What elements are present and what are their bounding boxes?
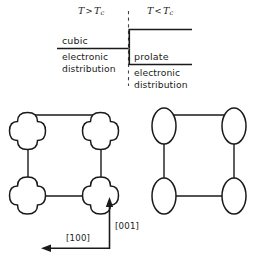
right-lattice-node-top-right — [222, 108, 246, 144]
right-lattice-node-bottom-left — [152, 178, 176, 214]
physics-diagram: T>Tc T<Tc cubic electronic distribution … — [0, 0, 254, 259]
left-lattice-node-top-left — [10, 113, 46, 150]
left-lattice-node-bottom-right — [83, 177, 119, 214]
phase-descriptor-left-line1: electronic — [62, 52, 108, 62]
phase-descriptor-right-line1: electronic — [134, 68, 180, 78]
left-lattice — [10, 113, 119, 215]
right-lattice — [152, 108, 246, 214]
right-lattice-node-top-left — [152, 108, 176, 144]
phase-descriptor-right-line2: distribution — [134, 80, 188, 90]
axis-label-100: [100] — [66, 234, 90, 244]
phase-name-cubic: cubic — [62, 36, 88, 47]
phase-name-prolate: prolate — [134, 52, 169, 63]
condition-right-operator: < — [154, 6, 163, 16]
condition-left-reference-subscript: c — [100, 9, 104, 17]
condition-left-operator: > — [85, 6, 94, 16]
condition-right-symbol: T — [147, 5, 154, 16]
right-lattice-node-bottom-right — [222, 178, 246, 214]
axis-label-001: [001] — [115, 222, 139, 232]
phase-descriptor-left-line2: distribution — [62, 64, 116, 74]
condition-label-right: T<Tc — [147, 6, 173, 18]
condition-left-symbol: T — [78, 5, 85, 16]
left-lattice-node-top-right — [83, 113, 119, 150]
axis-horizontal-arrowhead — [41, 245, 51, 252]
left-lattice-node-bottom-left — [10, 177, 46, 214]
condition-label-left: T>Tc — [78, 6, 104, 18]
condition-right-reference-subscript: c — [169, 9, 173, 17]
